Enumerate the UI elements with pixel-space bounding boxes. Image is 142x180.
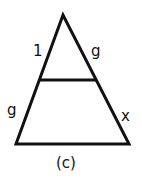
label-upper-left: 1 — [33, 42, 43, 60]
label-upper-right: g — [91, 42, 101, 60]
figure-caption: (c) — [56, 154, 76, 172]
label-lower-left: g — [7, 101, 17, 119]
label-lower-right: x — [121, 107, 130, 125]
triangle-diagram: 1 g g x (c) — [0, 0, 142, 180]
